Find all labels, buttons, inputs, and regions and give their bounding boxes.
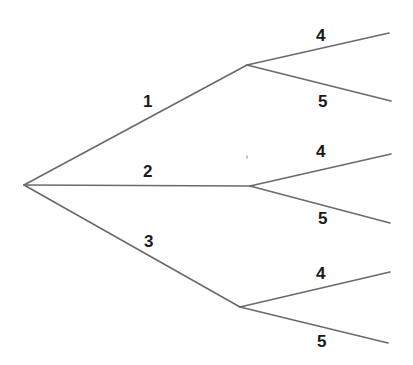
label-branch-2-5: 5 (318, 209, 327, 228)
edge-root-to-2 (24, 185, 250, 186)
label-branch-1: 1 (143, 92, 152, 111)
tree-diagram: 1 2 3 4 5 4 5 4 5 (0, 0, 413, 365)
edge-3-to-5 (240, 307, 388, 343)
label-branch-3-5: 5 (317, 332, 326, 351)
label-branch-3: 3 (144, 232, 153, 251)
edge-3-to-4 (240, 272, 390, 307)
edge-root-to-1 (24, 65, 247, 185)
label-branch-1-5: 5 (318, 92, 327, 111)
label-branch-2: 2 (143, 162, 152, 181)
label-branch-3-4: 4 (316, 264, 326, 283)
edge-root-to-3 (24, 185, 240, 307)
label-branch-2-4: 4 (316, 142, 326, 161)
label-branch-1-4: 4 (316, 26, 326, 45)
speck-mark (246, 155, 248, 159)
